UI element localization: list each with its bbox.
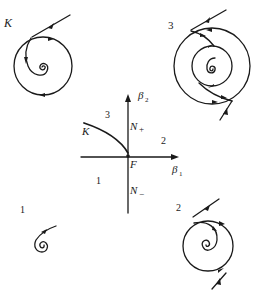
arrow-icon <box>221 95 227 99</box>
arrow-icon <box>205 17 210 23</box>
arrow-icon <box>48 23 54 29</box>
portrait-1-label: 1 <box>20 204 25 215</box>
region-1-label: 1 <box>96 175 101 186</box>
arrow-up-icon <box>125 94 131 102</box>
k-curve <box>84 123 128 153</box>
portrait-k: K <box>3 15 72 97</box>
portrait-3-label: 3 <box>168 19 174 31</box>
region-3-label: 3 <box>105 109 110 120</box>
n-plus-label: N <box>129 120 138 132</box>
center-spiral <box>207 58 215 73</box>
arrow-icon <box>39 93 45 97</box>
beta2-label: β <box>137 89 144 101</box>
inner-spiral <box>26 38 48 75</box>
arrow-icon <box>200 33 206 37</box>
beta2-subscript: 2 <box>145 96 149 104</box>
origin-label: F <box>129 158 137 170</box>
n-minus-sign: − <box>139 189 144 199</box>
portrait-1: 1 <box>20 204 56 252</box>
portrait-2: 2 <box>176 199 233 289</box>
bifurcation-figure: K 3 <box>0 0 259 301</box>
beta1-label: β <box>171 163 178 175</box>
inner-spiral <box>194 222 217 250</box>
parameter-plane: β 2 β 1 F N + N − K 3 2 1 <box>81 89 183 213</box>
arrow-right-icon <box>171 154 179 160</box>
portrait-k-label: K <box>3 16 13 30</box>
portrait-2-label: 2 <box>176 202 181 213</box>
beta1-subscript: 1 <box>179 170 183 178</box>
n-minus-label: N <box>129 184 138 196</box>
region-2-label: 2 <box>161 135 166 146</box>
separatrix <box>191 31 214 46</box>
portrait-3: 3 <box>168 10 250 120</box>
k-curve-label: K <box>81 125 90 137</box>
n-plus-sign: + <box>139 124 144 134</box>
